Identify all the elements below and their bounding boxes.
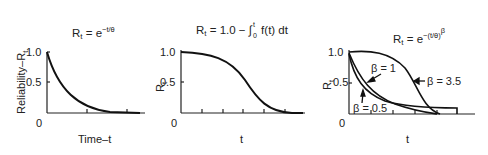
- panel2-ylabel: Rt: [155, 82, 169, 92]
- panel2-title: Rt = 1.0 − ∫t0 f(t) dt: [196, 24, 288, 38]
- annotation-beta-3-5: β = 3.5: [427, 76, 461, 87]
- panel1-title: Rt = e−t/θ: [72, 26, 115, 41]
- panel2-xlabel: t: [240, 134, 243, 145]
- panel1-axes: [47, 52, 145, 113]
- annotation-beta-0-5: β = 0.5: [353, 103, 387, 114]
- reliability-figure: Rt = e−t/θ 1.0 0.5 0 Reliability–Rt Time…: [0, 0, 488, 155]
- panel3-xlabel: t: [406, 134, 409, 145]
- panel1-exp-curve: [47, 52, 140, 113]
- panel1-ytick-0: 0: [36, 118, 42, 129]
- panel3-ytick-1: 1.0: [328, 47, 343, 58]
- panel1-xlabel: Time–t: [78, 134, 111, 145]
- panel2-curve: [181, 52, 303, 113]
- panel2-ytick-0: 0: [171, 118, 177, 129]
- panel2-axes: [181, 50, 305, 113]
- panel1-ylabel: Reliability–Rt: [16, 51, 30, 114]
- annotation-beta-1: β = 1: [371, 63, 396, 74]
- panel3-title: Rt = e−(t/θ)β: [393, 27, 445, 47]
- panel3-ylabel: Rt: [322, 80, 336, 90]
- panel3-ytick-0: 0: [339, 118, 345, 129]
- panel2-ytick-1: 1.0: [160, 47, 175, 58]
